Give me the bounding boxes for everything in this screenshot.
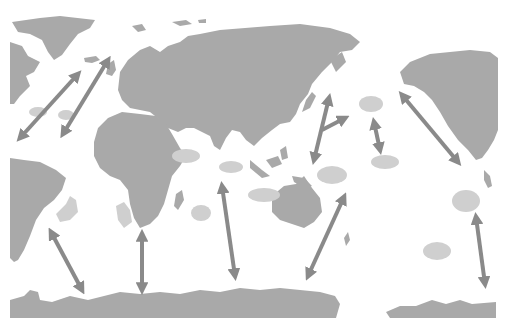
land-north-america-east <box>10 42 40 104</box>
land-antarctica-right <box>386 300 496 318</box>
route-south-atlantic-west <box>51 232 82 290</box>
zone-north-pacific-1 <box>359 96 383 112</box>
route-north-atlantic-east <box>63 60 108 134</box>
land-masses <box>10 16 498 318</box>
land-australia <box>272 176 322 228</box>
land-arctic-islands <box>172 19 206 26</box>
land-north-america-west <box>400 50 498 160</box>
zone-southeast-atlantic <box>116 202 132 228</box>
land-new-zealand <box>344 232 350 246</box>
land-madagascar <box>174 190 184 210</box>
zone-timor-sea <box>248 188 280 202</box>
zone-south-pacific-east <box>452 190 480 212</box>
route-indian-ocean <box>222 186 235 276</box>
route-central-north-pacific <box>374 122 380 150</box>
zone-madagascar-east <box>191 205 211 221</box>
zone-south-atlantic-brazil <box>56 196 78 222</box>
land-svalbard <box>132 24 146 32</box>
zone-coral-sea <box>317 166 347 184</box>
land-antarctica-left <box>10 288 340 318</box>
zone-north-pacific-2 <box>371 155 399 169</box>
zone-south-pacific-central <box>423 242 451 260</box>
land-iceland <box>84 56 100 63</box>
zone-arabian-sea <box>172 149 200 163</box>
land-central-america <box>484 170 492 188</box>
right-margin <box>498 0 511 332</box>
zone-north-indian <box>219 161 243 173</box>
route-southeast-pacific <box>476 217 485 284</box>
world-map <box>0 0 511 332</box>
